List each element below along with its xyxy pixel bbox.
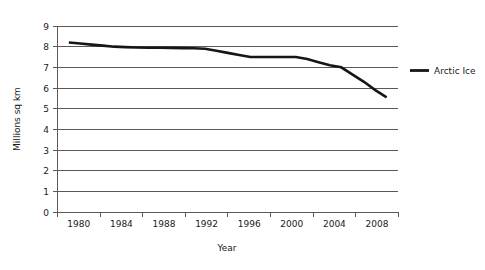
y-tick-label: 8 [43, 42, 49, 52]
x-tick-label: 1980 [67, 219, 90, 229]
x-tick-label: 2000 [280, 219, 303, 229]
y-tick-label: 5 [43, 104, 49, 114]
y-tick-label: 0 [43, 208, 49, 218]
line-chart: 9 8 7 6 5 4 3 2 1 0 1980 1984 198 [0, 0, 485, 270]
legend-label-arctic-ice: Arctic Ice [434, 66, 476, 76]
x-tick-label: 2008 [366, 219, 389, 229]
y-axis-title: Millions sq km [12, 87, 22, 151]
y-tick-label: 7 [43, 63, 49, 73]
x-tick-label: 1992 [195, 219, 218, 229]
y-tick-label: 1 [43, 187, 49, 197]
chart-background [0, 0, 485, 270]
chart-canvas: 9 8 7 6 5 4 3 2 1 0 1980 1984 198 [0, 0, 485, 270]
y-tick-label: 3 [43, 146, 49, 156]
x-tick-label: 1988 [153, 219, 176, 229]
x-tick-label: 1984 [110, 219, 133, 229]
x-axis-title: Year [216, 243, 236, 253]
y-tick-label: 4 [43, 125, 49, 135]
y-tick-label: 9 [43, 22, 49, 32]
x-tick-label: 1996 [238, 219, 261, 229]
x-tick-label: 2004 [323, 219, 346, 229]
y-tick-label: 2 [43, 166, 49, 176]
y-tick-label: 6 [43, 84, 49, 94]
